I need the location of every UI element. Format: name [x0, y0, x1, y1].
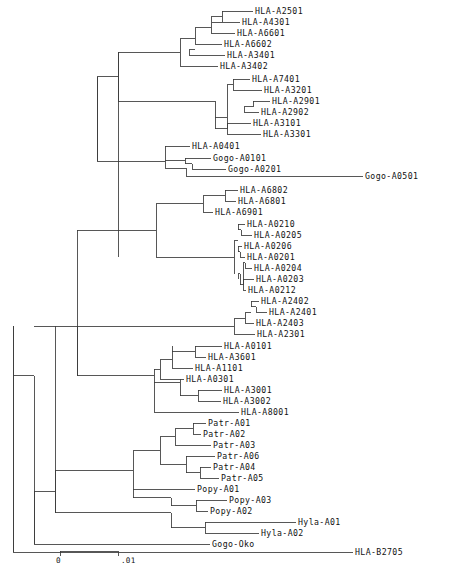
- tip-label: HLA-A8001: [241, 407, 289, 417]
- tip-label: Patr-A01: [208, 418, 251, 428]
- tip-label: Gogo-A0501: [365, 171, 418, 181]
- tip-label: HLA-A3002: [223, 396, 271, 406]
- tip-label: HLA-A0204: [254, 263, 302, 273]
- phylogenetic-tree-figure: HLA-A2501HLA-A4301HLA-A6601HLA-A6602HLA-…: [0, 0, 458, 569]
- tip-label: HLA-A6802: [240, 185, 288, 195]
- tip-label: HLA-A0206: [244, 241, 292, 251]
- tip-label: Patr-A02: [203, 429, 246, 439]
- tip-label: HLA-A3402: [220, 61, 268, 71]
- tip-label: Patr-A06: [217, 451, 260, 461]
- tip-label: HLA-A2403: [256, 318, 304, 328]
- tip-label: HLA-A4301: [242, 17, 290, 27]
- tip-label: HLA-A6601: [237, 28, 285, 38]
- tip-label: HLA-A3401: [227, 50, 275, 60]
- tip-label: HLA-A2301: [257, 329, 305, 339]
- tip-label: HLA-A2902: [261, 107, 309, 117]
- tip-label: HLA-A6901: [215, 207, 263, 217]
- tip-label: HLA-A2901: [272, 96, 320, 106]
- tip-label: HLA-A7401: [252, 74, 300, 84]
- tip-label: Patr-A05: [221, 473, 264, 483]
- tip-label: Gogo-A0101: [213, 153, 266, 163]
- tip-label: HLA-A0101: [224, 341, 272, 351]
- tip-label: Hyla-A02: [261, 528, 304, 538]
- tip-label: HLA-A0205: [254, 230, 302, 240]
- tip-label: HLA-A0201: [247, 252, 295, 262]
- scale-bar-start-label: 0: [56, 556, 61, 565]
- tip-label: Popy-A01: [197, 484, 240, 494]
- tip-label: Patr-A03: [213, 440, 256, 450]
- tip-label: HLA-A2401: [269, 307, 317, 317]
- tip-label: HLA-A0203: [256, 274, 304, 284]
- tip-label: HLA-B2705: [355, 547, 403, 557]
- tip-label: HLA-A3601: [208, 352, 256, 362]
- tip-label: HLA-A2501: [255, 6, 303, 16]
- tip-label: HLA-A1101: [195, 363, 243, 373]
- tip-label: Popy-A03: [229, 495, 272, 505]
- tip-label: HLA-A3101: [253, 118, 301, 128]
- tip-label: Gogo-Oko: [212, 539, 255, 549]
- tip-label: HLA-A0301: [186, 374, 234, 384]
- tip-label: HLA-A3001: [224, 385, 272, 395]
- tip-label: HLA-A0401: [192, 141, 240, 151]
- tip-label: HLA-A6602: [224, 39, 272, 49]
- tip-label: Patr-A04: [213, 462, 256, 472]
- tip-label: Popy-A02: [210, 506, 253, 516]
- tip-label: HLA-A3301: [263, 129, 311, 139]
- tip-label: Gogo-A0201: [228, 164, 281, 174]
- tip-label: HLA-A0212: [248, 285, 296, 295]
- tip-label: HLA-A6801: [238, 196, 286, 206]
- scale-bar-end-label: .01: [121, 556, 136, 565]
- tip-label: HLA-A3201: [264, 85, 312, 95]
- tip-label: Hyla-A01: [298, 517, 341, 527]
- tip-label: HLA-A2402: [261, 296, 309, 306]
- tip-label: HLA-A0210: [247, 219, 295, 229]
